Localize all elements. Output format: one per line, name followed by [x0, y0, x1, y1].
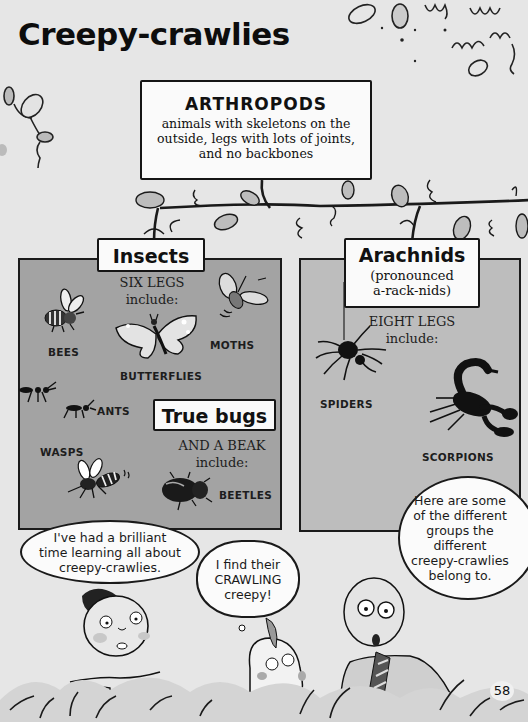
butterflies-label: BUTTERFLIES	[120, 370, 202, 382]
beetle-illustration	[160, 470, 216, 510]
speech-line: I've had a brilliant	[39, 530, 181, 545]
true-bugs-label: True bugs	[153, 399, 276, 431]
bees-label: BEES	[48, 346, 79, 358]
true-bugs-caption: AND A BEAK include:	[170, 437, 274, 471]
vine-doodle-top-left	[0, 82, 60, 172]
bee-illustration	[40, 290, 90, 334]
description-line: and no backbones	[142, 146, 370, 161]
arthropods-description: animals with skeletons on the outside, l…	[142, 116, 370, 161]
thought-line: I find their	[215, 557, 282, 572]
grass-foreground	[0, 660, 528, 722]
dog-thought-bubble: I find their CRAWLING creepy!	[196, 540, 300, 618]
speech-line: Here are some	[411, 493, 509, 508]
vine-doodle-top-right	[340, 0, 528, 90]
thought-line: creepy!	[215, 587, 282, 602]
caption-line: AND A BEAK	[170, 437, 274, 454]
spider-illustration	[310, 282, 390, 392]
wasp-illustration	[58, 458, 134, 502]
description-line: animals with skeletons on the	[142, 116, 370, 131]
arthropods-title: ARTHROPODS	[142, 94, 370, 114]
ant-illustration	[18, 380, 98, 420]
spiders-label: SPIDERS	[320, 398, 373, 410]
boy-speech-bubble: I've had a brilliant time learning all a…	[20, 520, 200, 584]
scorpion-illustration	[412, 352, 522, 438]
branch-vine-connector	[100, 176, 528, 242]
speech-line: creepy-crawlies	[411, 553, 509, 568]
page-number: 58	[490, 681, 514, 701]
caption-line: SIX LEGS	[106, 274, 198, 291]
scorpions-label: SCORPIONS	[422, 451, 494, 463]
butterfly-illustration	[114, 312, 198, 358]
caption-line: include:	[106, 291, 198, 308]
speech-line: of the different	[411, 508, 509, 523]
speech-line: creepy-crawlies.	[39, 560, 181, 575]
insects-caption: SIX LEGS include:	[106, 274, 198, 308]
beetles-label: BEETLES	[219, 489, 272, 501]
arthropods-box: ARTHROPODS animals with skeletons on the…	[140, 80, 372, 180]
ants-label: ANTS	[97, 405, 130, 417]
description-line: outside, legs with lots of joints,	[142, 131, 370, 146]
speech-line: time learning all about	[39, 545, 181, 560]
thought-line: CRAWLING	[215, 572, 282, 587]
speech-line: groups the	[411, 523, 509, 538]
moths-label: MOTHS	[210, 339, 254, 351]
wasps-label: WASPS	[40, 446, 84, 458]
insects-label: Insects	[97, 238, 205, 272]
caption-line: include:	[170, 454, 274, 471]
speech-line: different	[411, 538, 509, 553]
page-title: Creepy-crawlies	[18, 16, 290, 52]
pronunciation-line: (pronounced	[352, 268, 472, 283]
moth-illustration	[216, 270, 272, 320]
arachnids-title: Arachnids	[352, 242, 472, 268]
